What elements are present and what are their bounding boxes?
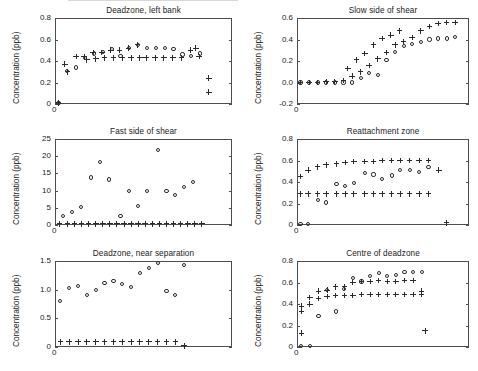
- open-circle-marker: [402, 270, 406, 274]
- open-circle-marker: [299, 344, 303, 348]
- figure-canvas: Deadzone, left bankConcentration (ppb)00…: [0, 0, 478, 371]
- y-tick-mark: [297, 261, 300, 262]
- y-tick-mark: [297, 326, 300, 327]
- y-tick-label: 0: [263, 342, 293, 351]
- y-axis-label: Concentration (ppb): [254, 275, 263, 347]
- y-tick-mark-right: [466, 326, 469, 327]
- y-tick-mark-right: [466, 261, 469, 262]
- y-tick-mark-right: [466, 283, 469, 284]
- y-tick-label: 0.4: [263, 299, 293, 308]
- open-circle-marker: [411, 270, 415, 274]
- x-origin-label: 0: [294, 348, 298, 357]
- y-tick-label: 0.2: [263, 321, 293, 330]
- subplot-centre-of-deadzone: Centre of deadzoneConcentration (ppb)00.…: [0, 0, 478, 371]
- open-circle-marker: [316, 314, 320, 318]
- y-tick-label: 0.8: [263, 256, 293, 265]
- open-circle-marker: [334, 309, 338, 313]
- subplot-title: Centre of deadzone: [297, 249, 469, 258]
- y-tick-mark-right: [466, 304, 469, 305]
- y-tick-mark: [297, 283, 300, 284]
- y-tick-mark-right: [466, 347, 469, 348]
- plot-area: [297, 261, 469, 347]
- open-circle-marker: [394, 273, 398, 277]
- open-circle-marker: [377, 271, 381, 275]
- open-circle-marker: [308, 344, 312, 348]
- open-circle-marker: [420, 270, 424, 274]
- y-tick-label: 0.6: [263, 278, 293, 287]
